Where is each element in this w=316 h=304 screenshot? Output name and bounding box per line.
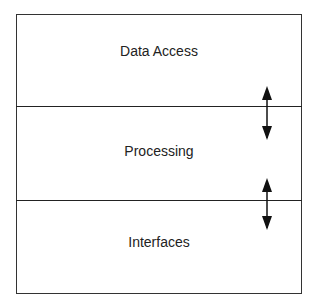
bidirectional-arrow-icon xyxy=(262,86,272,140)
bidirectional-arrows xyxy=(0,0,316,304)
bidirectional-arrow-icon xyxy=(262,178,272,230)
